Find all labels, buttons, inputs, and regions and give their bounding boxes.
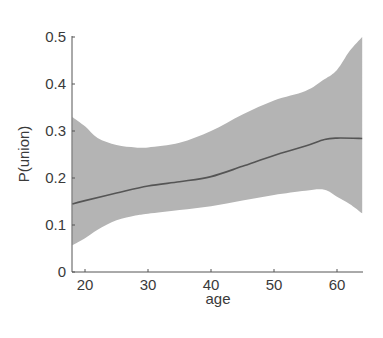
chart: 00.10.20.30.40.5 2030405060 age P(union) bbox=[0, 0, 383, 338]
y-ticks: 00.10.20.30.40.5 bbox=[45, 28, 75, 280]
x-axis-label: age bbox=[205, 290, 230, 307]
x-tick-label: 30 bbox=[140, 276, 157, 293]
y-tick-label: 0.2 bbox=[45, 169, 66, 186]
y-tick-label: 0.5 bbox=[45, 28, 66, 45]
y-tick-label: 0.1 bbox=[45, 216, 66, 233]
y-tick-label: 0 bbox=[58, 263, 66, 280]
y-tick-label: 0.4 bbox=[45, 75, 66, 92]
y-tick-label: 0.3 bbox=[45, 122, 66, 139]
x-tick-label: 20 bbox=[77, 276, 94, 293]
x-tick-label: 60 bbox=[329, 276, 346, 293]
y-axis-label: P(union) bbox=[15, 126, 32, 183]
x-tick-label: 50 bbox=[266, 276, 283, 293]
